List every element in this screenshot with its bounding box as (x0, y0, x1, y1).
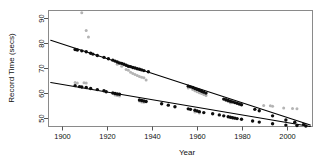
y-ticklabel-80: 80 (37, 39, 46, 47)
data-point (144, 100, 147, 103)
data-point (145, 79, 148, 82)
data-point (173, 105, 176, 108)
data-point (284, 123, 287, 126)
data-point (107, 57, 110, 60)
data-point (96, 88, 99, 91)
data-point (189, 108, 192, 111)
data-point (85, 81, 88, 84)
data-point (295, 124, 298, 127)
y-ticklabel-50: 50 (37, 114, 46, 122)
data-point (147, 70, 150, 73)
data-point (258, 120, 261, 123)
data-point (76, 48, 79, 51)
data-point (73, 84, 76, 87)
data-point (167, 103, 170, 106)
data-point (258, 109, 261, 112)
data-point (87, 35, 90, 38)
data-point (202, 111, 205, 114)
data-point (80, 11, 83, 14)
data-point (304, 124, 307, 127)
data-point (271, 105, 274, 108)
data-point (240, 103, 243, 106)
chart-background (0, 0, 327, 164)
data-point (204, 91, 207, 94)
data-point (104, 90, 107, 93)
x-ticklabel-1980: 1980 (234, 132, 250, 141)
data-point (85, 86, 88, 89)
record-time-scatter-chart: 90 80 70 60 50 1900 1920 1940 1960 1980 … (0, 0, 327, 164)
data-point (102, 56, 105, 59)
data-point (85, 50, 88, 53)
y-ticklabel-60: 60 (37, 89, 46, 97)
data-point (222, 114, 225, 117)
data-point (198, 110, 201, 113)
data-point (211, 112, 214, 115)
data-point (262, 104, 265, 107)
data-point (80, 49, 83, 52)
data-point (218, 113, 221, 116)
data-point (160, 102, 163, 105)
data-point (80, 85, 83, 88)
x-ticklabel-1960: 1960 (189, 132, 205, 141)
data-point (91, 52, 94, 55)
data-point (293, 121, 296, 124)
data-point (142, 76, 145, 79)
x-ticklabel-1920: 1920 (99, 132, 115, 141)
data-point (89, 87, 92, 90)
x-ticklabel-1940: 1940 (144, 132, 160, 141)
x-axis-title: Year (179, 148, 196, 157)
data-point (240, 118, 243, 121)
data-point (235, 117, 238, 120)
x-ticklabel-1900: 1900 (54, 132, 70, 141)
y-axis-title: Record Time (secs) (7, 33, 16, 103)
data-point (142, 69, 145, 72)
data-point (271, 122, 274, 125)
x-ticklabel-2000: 2000 (279, 132, 295, 141)
data-point (295, 107, 298, 110)
data-point (118, 93, 121, 96)
y-ticklabel-90: 90 (37, 14, 46, 22)
data-point (251, 119, 254, 122)
data-point (96, 54, 99, 57)
data-point (271, 114, 274, 117)
data-point (76, 81, 79, 84)
data-point (253, 108, 256, 111)
chart-svg: 90 80 70 60 50 1900 1920 1940 1960 1980 … (0, 0, 327, 164)
data-point (282, 106, 285, 109)
y-ticklabel-70: 70 (37, 64, 46, 72)
data-point (85, 29, 88, 32)
data-point (284, 118, 287, 121)
data-point (291, 107, 294, 110)
